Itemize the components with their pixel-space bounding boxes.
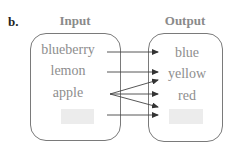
arrow-apple-yellow — [110, 80, 158, 94]
arrow-apple-blank — [110, 94, 158, 107]
mapping-arrows — [0, 0, 232, 161]
